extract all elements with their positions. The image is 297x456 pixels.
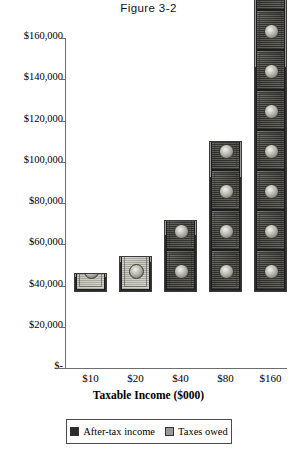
legend-label: After-tax income: [83, 426, 155, 437]
y-axis-tick-label: $-: [54, 360, 63, 371]
dollar-bill-icon: [211, 170, 240, 210]
x-axis-title: Taxable Income ($000): [0, 389, 297, 401]
dollar-bill-icon: [256, 90, 285, 130]
legend-swatch-icon: [165, 427, 174, 436]
dollar-bill-icon: [256, 170, 285, 210]
dollar-bill-icon: [211, 141, 240, 170]
dollar-bill-icon: [166, 220, 195, 250]
y-axis-tick-label: $140,000: [24, 71, 63, 82]
y-axis-tick-mark: [59, 368, 65, 369]
dollar-bill-icon: [211, 210, 240, 250]
y-axis-tick-mark: [59, 327, 65, 328]
x-axis-tick-label: $40: [156, 372, 205, 384]
y-axis-tick-label: $60,000: [29, 236, 63, 247]
y-axis-tick-mark: [59, 38, 65, 39]
y-axis-tick-mark: [59, 162, 65, 163]
y-axis-tick-label: $100,000: [24, 154, 63, 165]
dollar-bill-icon: [76, 273, 105, 290]
dollar-bill-icon: [256, 130, 285, 170]
y-axis-tick-label: $80,000: [29, 195, 63, 206]
legend-entry: After-tax income: [70, 426, 155, 437]
chart-legend: After-tax incomeTaxes owed: [66, 419, 232, 444]
x-axis-tick-label: $80: [201, 372, 250, 384]
chart-plot-area: $160,000$140,000$120,000$100,000$80,000$…: [0, 0, 297, 380]
dollar-bill-icon: [211, 250, 240, 290]
y-axis-tick-label: $20,000: [29, 319, 63, 330]
legend-swatch-icon: [70, 427, 79, 436]
bar: 22.7%: [209, 141, 242, 292]
y-axis-tick-mark: [59, 121, 65, 122]
dollar-bill-fill-icon: [75, 274, 106, 291]
dollar-bill-fill-icon: [165, 221, 196, 291]
y-axis-tick-label: $160,000: [24, 30, 63, 41]
dollar-bill-fill-icon: [120, 257, 151, 291]
x-axis-tick-label: $160: [246, 372, 295, 384]
dollar-bill-icon: [256, 210, 285, 250]
dollar-bill-icon: [256, 50, 285, 90]
dollar-bill-icon: [121, 256, 150, 290]
bar: 11.5%: [74, 273, 107, 292]
y-axis-line: [65, 38, 66, 369]
dollar-bill-icon: [256, 250, 285, 290]
y-axis-tick-mark: [59, 203, 65, 204]
x-axis-tick-label: $10: [66, 372, 115, 384]
y-axis-tick-label: $40,000: [29, 278, 63, 289]
bar: 19.7%: [164, 220, 197, 292]
dollar-bill-icon: [256, 0, 285, 10]
bar: 25.9%: [254, 0, 287, 292]
y-axis-tick-mark: [59, 244, 65, 245]
y-axis-tick-mark: [59, 286, 65, 287]
dollar-bill-icon: [166, 250, 195, 290]
y-axis-tick-mark: [59, 79, 65, 80]
legend-label: Taxes owed: [178, 426, 228, 437]
y-axis-tick-label: $120,000: [24, 113, 63, 124]
x-axis-tick-label: $20: [111, 372, 160, 384]
dollar-bill-fill-icon: [255, 0, 286, 291]
bar: 13.3%: [119, 256, 152, 292]
legend-entry: Taxes owed: [165, 426, 228, 437]
dollar-bill-fill-icon: [210, 142, 241, 291]
x-axis-line: [65, 368, 287, 369]
dollar-bill-icon: [256, 10, 285, 50]
